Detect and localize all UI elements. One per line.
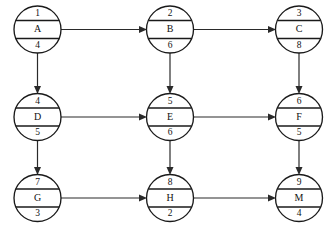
node-m-bottom: 4 xyxy=(297,208,302,218)
edge-e-h xyxy=(167,140,174,175)
nodes-layer: 1 A 4 2 B 6 3 C 8 xyxy=(14,6,323,222)
node-h-label: H xyxy=(166,192,173,203)
edge-b-c xyxy=(193,26,276,33)
node-m-top: 9 xyxy=(297,177,302,187)
edge-a-d xyxy=(34,53,41,94)
node-f-top: 6 xyxy=(297,96,302,106)
node-f-bottom: 5 xyxy=(297,127,302,137)
node-f-label: F xyxy=(296,111,302,122)
edge-h-m xyxy=(193,195,276,202)
network-diagram: 1 A 4 2 B 6 3 C 8 xyxy=(0,0,324,235)
node-c-label: C xyxy=(296,23,303,34)
edge-d-g xyxy=(34,140,41,175)
edge-b-e xyxy=(167,53,174,94)
node-c-top: 3 xyxy=(297,8,302,18)
node-g[interactable]: 7 G 3 xyxy=(14,175,61,222)
node-d-bottom: 5 xyxy=(35,127,40,137)
node-c[interactable]: 3 C 8 xyxy=(276,6,323,53)
node-g-label: G xyxy=(34,192,41,203)
node-b-bottom: 6 xyxy=(168,40,173,50)
node-g-top: 7 xyxy=(35,177,40,187)
node-f[interactable]: 6 F 5 xyxy=(276,94,323,141)
node-e-top: 5 xyxy=(168,96,173,106)
node-h-top: 8 xyxy=(168,177,173,187)
node-d-label: D xyxy=(34,111,41,122)
node-d-top: 4 xyxy=(35,96,40,106)
edge-g-h xyxy=(61,195,147,202)
edge-d-e xyxy=(61,114,147,121)
edge-f-m xyxy=(296,140,303,175)
node-a-label: A xyxy=(34,23,42,34)
edge-a-b xyxy=(61,26,147,33)
node-m-label: M xyxy=(295,192,304,203)
node-c-bottom: 8 xyxy=(297,40,302,50)
node-b[interactable]: 2 B 6 xyxy=(147,6,194,53)
node-a-top: 1 xyxy=(35,8,40,18)
node-h[interactable]: 8 H 2 xyxy=(147,175,194,222)
node-d[interactable]: 4 D 5 xyxy=(14,94,61,141)
edge-e-f xyxy=(193,114,276,121)
node-a[interactable]: 1 A 4 xyxy=(14,6,61,53)
node-m[interactable]: 9 M 4 xyxy=(276,175,323,222)
node-e-bottom: 6 xyxy=(168,127,173,137)
diagram-canvas: 1 A 4 2 B 6 3 C 8 xyxy=(0,0,324,235)
node-b-top: 2 xyxy=(168,8,173,18)
node-h-bottom: 2 xyxy=(168,208,173,218)
node-a-bottom: 4 xyxy=(35,40,40,50)
node-e-label: E xyxy=(167,111,173,122)
node-e[interactable]: 5 E 6 xyxy=(147,94,194,141)
node-g-bottom: 3 xyxy=(35,208,40,218)
node-b-label: B xyxy=(167,23,174,34)
edge-c-f xyxy=(296,53,303,94)
